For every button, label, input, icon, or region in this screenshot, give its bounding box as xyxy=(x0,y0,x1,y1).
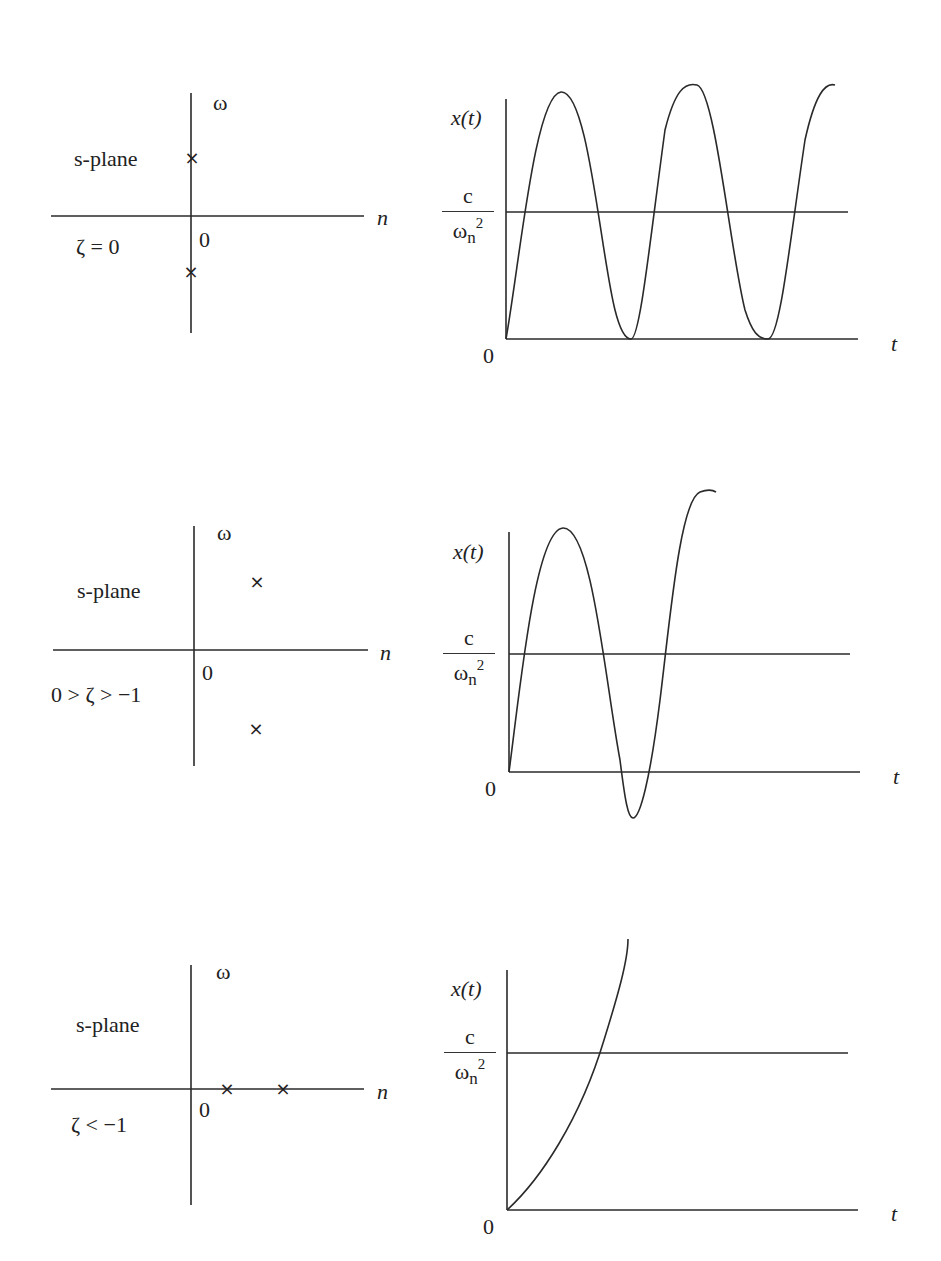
splane-1-n-label: n xyxy=(377,207,388,229)
splane-3-title: s-plane xyxy=(76,1014,140,1036)
response-3-y-label: x(t) xyxy=(451,978,482,1000)
splane-2-origin-label: 0 xyxy=(202,662,213,684)
splane-1-omega-label: ω xyxy=(213,92,227,114)
splane-2-title: s-plane xyxy=(77,580,141,602)
fraction-denominator: ωn2 xyxy=(442,1053,498,1087)
pole-marker-icon: × xyxy=(248,720,263,738)
pole-marker-icon: × xyxy=(183,263,198,281)
fraction-numerator: c xyxy=(442,1026,498,1052)
response-3-reference-label: c ωn2 xyxy=(442,1026,498,1087)
response-3-origin-label: 0 xyxy=(483,1216,494,1238)
splane-1-title: s-plane xyxy=(74,148,138,170)
splane-2-condition: 0 > ζ > −1 xyxy=(51,684,141,706)
fraction-numerator: c xyxy=(441,627,497,653)
pole-marker-icon: × xyxy=(275,1080,290,1098)
pole-marker-icon: × xyxy=(184,149,199,167)
splane-3-origin-label: 0 xyxy=(199,1099,210,1121)
splane-1-origin-label: 0 xyxy=(199,229,210,251)
response-2-y-label: x(t) xyxy=(453,541,484,563)
splane-3-n-label: n xyxy=(377,1081,388,1103)
subscript: n xyxy=(469,1069,478,1088)
superscript: 2 xyxy=(478,1056,486,1072)
response-2-origin-label: 0 xyxy=(485,778,496,800)
pole-marker-icon: × xyxy=(249,573,264,591)
subscript: n xyxy=(467,228,476,247)
omega-symbol: ω xyxy=(455,1059,469,1084)
omega-symbol: ω xyxy=(453,218,467,243)
splane-3-condition: ζ < −1 xyxy=(71,1114,127,1136)
superscript: 2 xyxy=(476,215,484,231)
pole-marker-icon: × xyxy=(219,1080,234,1098)
response-3-t-label: t xyxy=(891,1203,897,1225)
response-1-reference-label: c ωn2 xyxy=(440,185,496,246)
response-1-y-label: x(t) xyxy=(451,107,482,129)
superscript: 2 xyxy=(477,657,485,673)
splane-3-omega-label: ω xyxy=(216,961,230,983)
splane-2-omega-label: ω xyxy=(217,522,231,544)
subscript: n xyxy=(468,670,477,689)
fraction-denominator: ωn2 xyxy=(441,654,497,688)
response-1-origin-label: 0 xyxy=(483,345,494,367)
response-2-reference-label: c ωn2 xyxy=(441,627,497,688)
splane-1-condition: ζ = 0 xyxy=(76,236,120,258)
omega-symbol: ω xyxy=(454,660,468,685)
fraction-denominator: ωn2 xyxy=(440,212,496,246)
response-1-t-label: t xyxy=(891,333,897,355)
fraction-numerator: c xyxy=(440,185,496,211)
response-3-curve xyxy=(507,939,628,1210)
response-2-t-label: t xyxy=(893,766,899,788)
splane-2-n-label: n xyxy=(380,642,391,664)
